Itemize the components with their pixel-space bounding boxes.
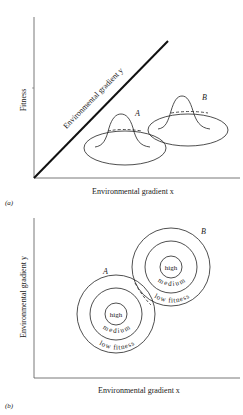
species-b-zone-low: low fitness [153, 292, 191, 304]
panel-b: Environmental gradient y Environmental g… [5, 218, 240, 410]
species-b-label: B [201, 227, 206, 236]
panel-a-label: (a) [5, 199, 14, 207]
species-a-contours: high medium low fitness A [77, 267, 155, 353]
figure: Fitness Environmental gradient x Environ… [0, 0, 243, 415]
species-b-zone-high: high [165, 264, 178, 272]
species-a-surface: A [84, 109, 166, 165]
diagonal-axis-label: Environmental gradient y [61, 66, 125, 131]
x-axis-label: Environmental gradient x [98, 386, 180, 395]
species-b-surface: B [148, 93, 228, 146]
species-a-label: A [134, 109, 140, 118]
y-axis-label: Fitness [19, 89, 28, 112]
panel-a: Fitness Environmental gradient x Environ… [5, 17, 240, 207]
y-axis-label: Environmental gradient y [19, 256, 28, 338]
species-a-zone-high: high [110, 311, 123, 319]
diagonal-axis-y [34, 41, 168, 178]
species-a-label: A [102, 267, 108, 276]
species-b-label: B [202, 93, 207, 102]
panel-b-label: (b) [5, 402, 14, 410]
species-b-contours: high medium low fitness B [132, 227, 210, 306]
x-axis-label: Environmental gradient x [92, 187, 174, 196]
species-a-zone-low: low fitness [98, 339, 136, 351]
